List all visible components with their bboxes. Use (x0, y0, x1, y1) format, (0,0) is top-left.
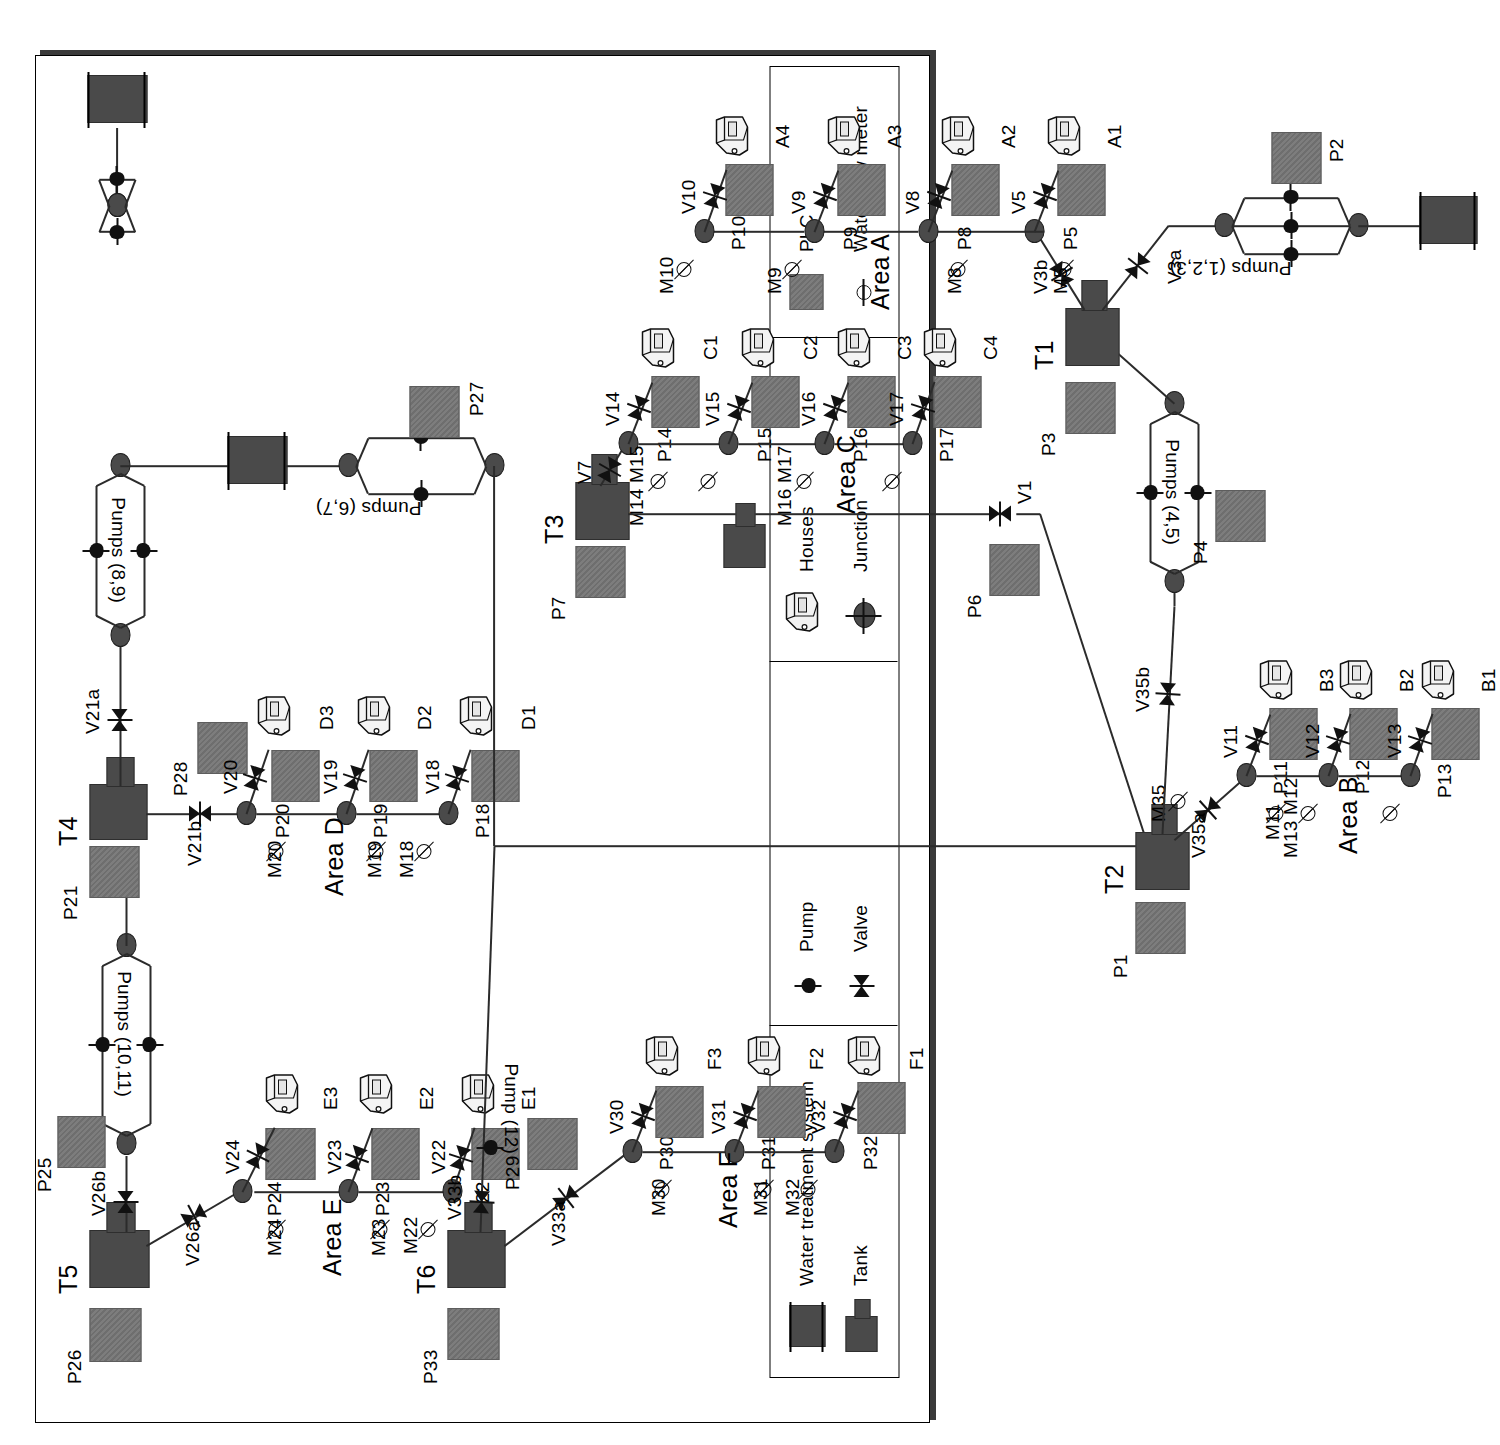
plc-P10 (726, 164, 774, 216)
legend-pump-icon (799, 977, 816, 994)
D-spine-1 (256, 813, 346, 815)
house-B2 (1338, 658, 1374, 704)
legend-divider (770, 1024, 898, 1025)
valve-V19 (343, 764, 366, 790)
valve-V35b (1158, 682, 1176, 705)
plc-label-P21: P21 (60, 885, 82, 919)
pumps-12-label: Pump (12) (500, 1063, 522, 1154)
wts-body (228, 436, 288, 484)
plc-P7 (576, 546, 626, 598)
house-label-D3: D3 (316, 705, 338, 730)
plc-label-P18: P18 (472, 803, 494, 837)
pumps-1-2-3-branch-right (1232, 197, 1245, 226)
house-label-A1: A1 (1104, 124, 1126, 148)
plc-P27 (410, 386, 460, 438)
pumps123-to-wts (1358, 225, 1420, 227)
wts-right (228, 432, 286, 490)
valve-label-V31: V31 (708, 1099, 730, 1133)
tank-outlet (855, 1299, 871, 1319)
valve-label-V18: V18 (422, 759, 444, 793)
valve-label-V32: V32 (808, 1099, 830, 1133)
plc-P1 (1136, 902, 1186, 954)
pumps-8-9-branch-bottom (120, 615, 145, 628)
pump-12-icon (481, 1139, 498, 1156)
tank-label-T5: T5 (54, 1264, 83, 1294)
plc-P18 (472, 750, 520, 802)
meter-label-M9: M9 (764, 267, 786, 294)
plc-label-P8: P8 (954, 226, 976, 250)
plc-P32 (858, 1082, 906, 1134)
valve-label-V26b: V26b (88, 1170, 110, 1215)
house-label-F1: F1 (906, 1047, 928, 1070)
tank-body (90, 1230, 150, 1288)
pumps-8-9-pump-icon (135, 542, 152, 559)
plc-P15 (752, 376, 800, 428)
valve-label-V33b: V33b (444, 1174, 466, 1219)
valve-V15 (727, 394, 750, 420)
valve-label-V21b: V21b (184, 820, 206, 865)
plc-label-P3: P3 (1038, 432, 1060, 456)
valve-V33b (472, 1190, 490, 1213)
valve-V23 (345, 1144, 368, 1170)
valve-label-V14: V14 (602, 391, 624, 425)
valve-V14 (627, 394, 650, 420)
plc-P21 (90, 846, 140, 898)
pumps-10-11-pump-icon (93, 1036, 110, 1053)
plc-P33 (448, 1308, 500, 1360)
A-spine-1 (928, 231, 1044, 233)
pumps-6-7-branch-right (474, 437, 487, 466)
pumps-4-5-branch-top (1150, 411, 1175, 424)
house-D2 (356, 694, 392, 740)
meter-label-M24: M24 (264, 1218, 286, 1256)
area-label-C: Area C (832, 434, 861, 513)
house-label-D2: D2 (414, 705, 436, 730)
tank-outlet (736, 503, 756, 527)
meter-label-M32: M32 (782, 1178, 804, 1216)
pumps-8-9-branch-top (96, 473, 121, 486)
plc-P20 (272, 750, 320, 802)
plc-label-P10: P10 (728, 215, 750, 249)
plc-label-P25: P25 (34, 1157, 56, 1191)
meter-label-M19: M19 (364, 840, 386, 878)
tank-body (724, 524, 766, 568)
valve-label-V17: V17 (886, 391, 908, 425)
trunk-vertical-right-of-F (494, 845, 1140, 847)
plc-label-P7: P7 (548, 596, 570, 620)
valve-V1 (989, 505, 1011, 522)
area-label-F: Area F (714, 1151, 743, 1227)
house-E2 (358, 1072, 394, 1118)
plc-P24 (266, 1128, 316, 1180)
plc-P4 (1216, 490, 1266, 542)
valve-label-V20: V20 (220, 759, 242, 793)
valve-label-V11: V11 (1220, 725, 1242, 758)
plc-label-P6: P6 (964, 594, 986, 618)
noop-skip-branch-right (125, 179, 136, 206)
tank-label-T4: T4 (54, 816, 83, 846)
meter-label-M22: M22 (400, 1216, 422, 1254)
C-spine-2 (738, 443, 824, 445)
valve-label-V26a: V26a (182, 1220, 204, 1265)
A-spine-2 (814, 231, 918, 233)
house-D3 (256, 694, 292, 740)
plc-label-P20: P20 (272, 803, 294, 837)
area-label-A: Area A (866, 233, 895, 309)
valve-V12 (1326, 726, 1349, 752)
plc-label-P1: P1 (1110, 954, 1132, 978)
source-water-treatment-system-icon (88, 72, 146, 128)
pumps-4-5-label: Pumps (4,5) (1161, 439, 1183, 545)
E-spine-2 (358, 1191, 452, 1193)
tank-body (1136, 832, 1190, 890)
house-C2 (740, 326, 776, 372)
house-label-B1: B1 (1478, 668, 1500, 692)
area-label-B: Area B (1334, 776, 1363, 854)
tank-label-T1: T1 (1030, 340, 1059, 370)
wts-cap (228, 432, 230, 490)
diagram-rotated-canvas: Water treatment systemTankPumpValveHouse… (28, 40, 921, 1406)
plc-P31 (758, 1086, 806, 1138)
valve-label-V16: V16 (798, 391, 820, 425)
tank-unlabeled-1 (724, 504, 764, 568)
tank-body (846, 1316, 878, 1352)
pumps-8-9-branch-bottom (120, 473, 145, 486)
D-spine-2 (356, 813, 448, 815)
